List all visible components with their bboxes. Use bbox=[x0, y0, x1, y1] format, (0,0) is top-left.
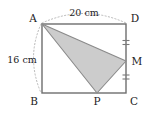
geometry-figure: A D B C M P 20 cm 16 cm bbox=[0, 0, 151, 116]
dimension-label-top-width: 20 cm bbox=[69, 7, 98, 18]
vertex-label-B: B bbox=[30, 95, 38, 107]
vertex-label-C: C bbox=[130, 95, 138, 107]
vertex-label-A: A bbox=[28, 12, 37, 24]
vertex-label-D: D bbox=[131, 12, 139, 24]
dimension-label-left-height: 16 cm bbox=[7, 54, 36, 65]
geometry-diagram: A D B C M P 20 cm 16 cm bbox=[0, 0, 151, 116]
vertex-label-P: P bbox=[93, 95, 100, 107]
vertex-label-M: M bbox=[132, 55, 143, 67]
shaded-triangle-AMP bbox=[42, 24, 126, 93]
